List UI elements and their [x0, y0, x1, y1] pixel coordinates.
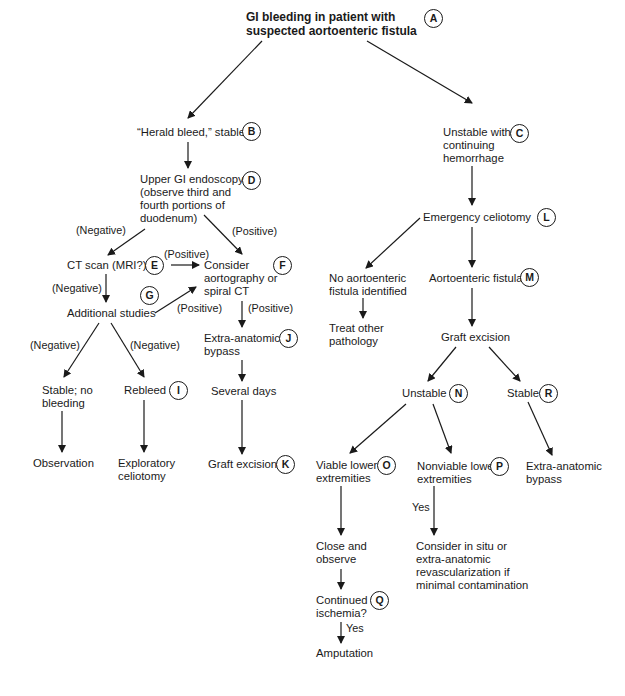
node-j-text: Extra-anatomic bypass	[204, 332, 280, 358]
node-no-fistula: No aortoenteric fistula identified	[329, 272, 407, 298]
node-close-observe: Close and observe	[316, 540, 367, 566]
node-j-badge: J	[279, 329, 298, 348]
node-b-badge: B	[242, 122, 261, 141]
node-l-text: Emergency celiotomy	[423, 211, 531, 224]
node-treat-other: Treat other pathology	[329, 322, 384, 348]
edge-label-e-g: (Negative)	[52, 282, 102, 294]
node-exploratory-celiotomy: Exploratory celiotomy	[118, 457, 175, 483]
edge-graft-n	[428, 347, 456, 381]
node-g-badge: G	[140, 286, 159, 305]
node-e-badge: E	[145, 256, 164, 275]
node-observation: Observation	[33, 457, 94, 470]
edge-n-o	[350, 404, 406, 453]
node-r-badge: R	[539, 384, 558, 403]
node-f-text: Consider aortography or spiral CT	[204, 259, 277, 298]
edge-label-d-f: (Positive)	[232, 225, 277, 237]
node-several-days: Several days	[211, 385, 276, 398]
node-q-text: Continued ischemia?	[316, 594, 368, 620]
edge-label-g-rebleed: (Negative)	[130, 339, 180, 351]
edge-label-q-amputation: Yes	[346, 622, 364, 634]
edge-a-c	[367, 41, 472, 103]
node-m-badge: M	[520, 268, 539, 287]
node-consider-in-situ: Consider in situ or extra-anatomic revas…	[416, 540, 528, 592]
node-amputation: Amputation	[316, 647, 373, 660]
edge-graft-r	[489, 347, 520, 381]
edge-label-g-stable: (Negative)	[30, 339, 80, 351]
node-i-badge: I	[169, 381, 188, 400]
node-m-text: Aortoenteric fistula	[429, 272, 523, 285]
edge-label-p-consider: Yes	[412, 501, 430, 513]
edge-a-b	[188, 41, 262, 118]
node-n-text: Unstable	[402, 387, 447, 400]
edge-r-bypass	[528, 402, 552, 455]
edge-label-d-e: (Negative)	[76, 224, 126, 236]
node-c-badge: C	[510, 124, 529, 143]
node-stable-no-bleeding: Stable; no bleeding	[42, 384, 93, 410]
node-r-text: Stable	[507, 387, 539, 400]
node-p-badge: P	[490, 457, 509, 476]
node-q-badge: Q	[370, 591, 389, 610]
node-l-badge: L	[537, 208, 556, 227]
edge-n-p	[433, 404, 451, 453]
flowchart-canvas: GI bleeding in patient with suspected ao…	[0, 0, 625, 696]
node-graft-excision-right: Graft excision	[441, 331, 510, 344]
edge-label-e-f: (Positive)	[164, 248, 209, 260]
edge-label-g-f: (Positive)	[177, 302, 222, 314]
node-f-badge: F	[273, 256, 292, 275]
edge-label-f-j: (Positive)	[248, 302, 293, 314]
node-o-badge: O	[377, 456, 396, 475]
node-k-text: Graft excision	[208, 458, 277, 471]
node-c-text: Unstable with continuing hemorrhage	[443, 126, 511, 165]
node-extra-anatomic-bypass-right: Extra-anatomic bypass	[526, 460, 602, 486]
node-n-badge: N	[449, 384, 468, 403]
node-a-text: GI bleeding in patient with suspected ao…	[246, 10, 417, 38]
edge-layer	[0, 0, 625, 696]
node-e-text: CT scan (MRI?)	[67, 259, 147, 272]
edge-l-nofistula	[366, 218, 420, 268]
node-g-text: Additional studies	[67, 307, 156, 320]
node-d-text: Upper GI endoscopy (observe third and fo…	[140, 173, 244, 225]
node-d-badge: D	[242, 171, 261, 190]
node-o-text: Viable lower extremities	[316, 459, 377, 485]
node-k-badge: K	[276, 455, 295, 474]
node-p-text: Nonviable lower extremities	[417, 460, 497, 486]
node-a-badge: A	[424, 9, 443, 28]
node-i-text: Rebleed	[124, 384, 166, 397]
node-b-text: “Herald bleed,” stable	[137, 126, 245, 139]
